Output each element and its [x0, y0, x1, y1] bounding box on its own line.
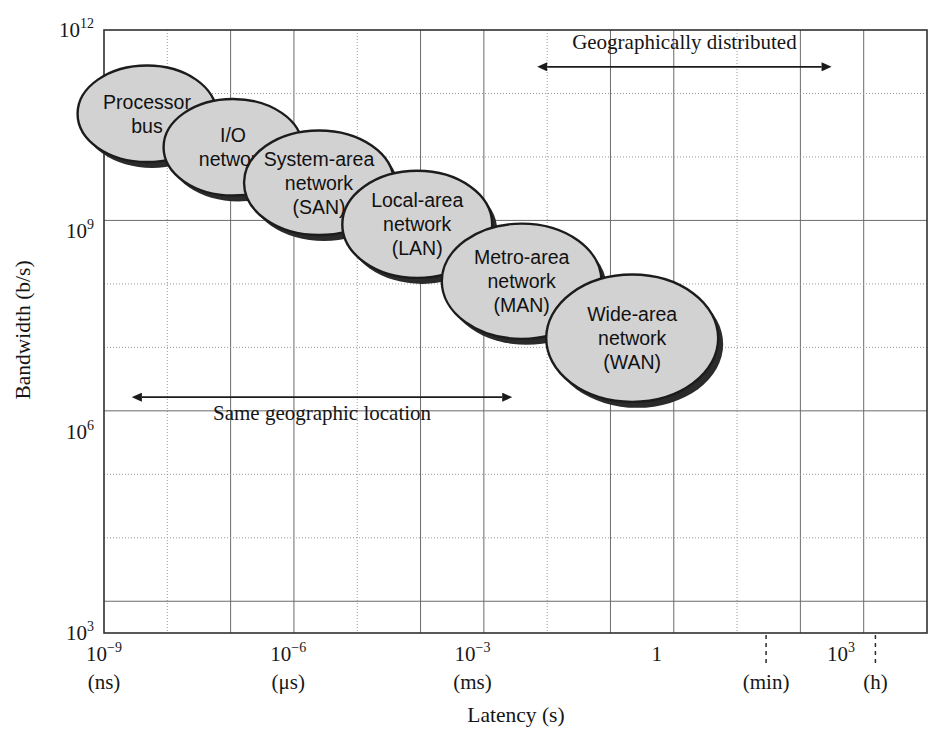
bubble-label-line: System-area [264, 148, 375, 170]
annotation-label-same-geographic-location: Same geographic location [213, 401, 432, 425]
bubble-label-line: network [383, 213, 452, 235]
annotation-label-geographically-distributed: Geographically distributed [572, 30, 797, 54]
bubble-label-line: network [285, 172, 354, 194]
bubble-label-line: Processor [103, 91, 191, 113]
bubble-label-line: Local-area [371, 189, 463, 211]
bubble-label-line: bus [131, 115, 163, 137]
bubble-label-line: network [598, 327, 667, 349]
bubble-label-line: network [488, 270, 557, 292]
x-tick-unit: (ns) [88, 670, 121, 694]
x-axis-title: Latency (s) [467, 703, 564, 727]
x-tick-unit: (min) [743, 670, 790, 694]
x-tick-unit: (μs) [272, 670, 305, 694]
bubble-label-line: (LAN) [392, 237, 443, 259]
bubble-label-line: I/O [220, 124, 246, 146]
bandwidth-latency-chart: Geographically distributedSame geographi… [0, 0, 943, 742]
bubble-label-line: Metro-area [474, 246, 570, 268]
bubble-label-line: (SAN) [292, 196, 345, 218]
x-tick-unit: (ms) [453, 670, 492, 694]
bubble-label-line: Wide-area [587, 303, 677, 325]
x-tick-label: 1 [652, 642, 663, 666]
bubble-label-line: (WAN) [603, 351, 661, 373]
bubble-label-line: (MAN) [493, 294, 549, 316]
chart-figure: Geographically distributedSame geographi… [0, 0, 943, 742]
y-axis-title: Bandwidth (b/s) [11, 260, 35, 399]
x-tick-unit: (h) [863, 670, 888, 694]
